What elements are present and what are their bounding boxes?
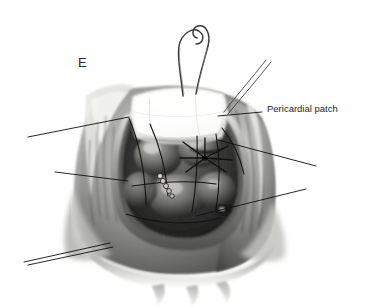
surgical-illustration [0, 0, 365, 307]
figure-panel: E Pericardial patch [0, 0, 365, 307]
knot-center [202, 155, 208, 160]
pericardial-patch [131, 87, 227, 144]
panel-letter: E [78, 56, 87, 69]
label-pericardial-patch: Pericardial patch [267, 104, 338, 114]
